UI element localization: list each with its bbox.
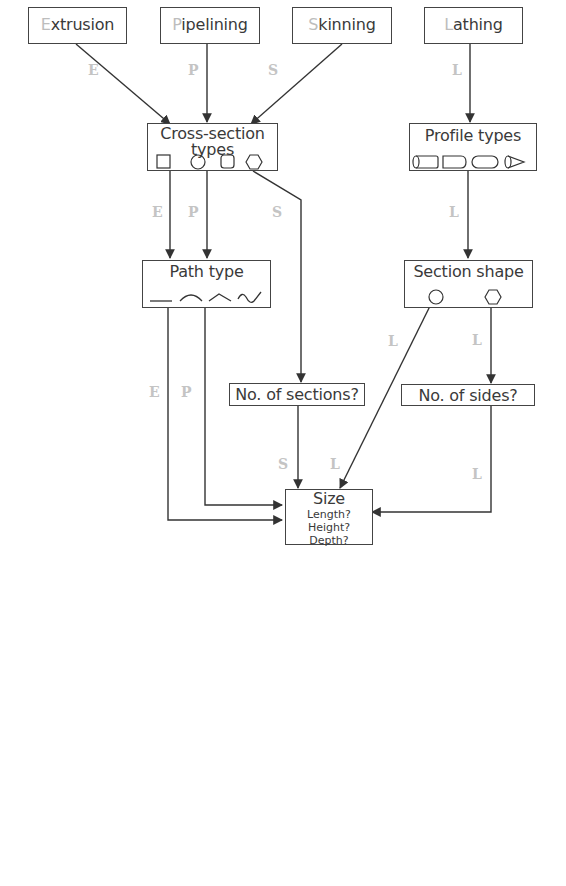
num-sides-title: No. of sides? — [402, 387, 534, 405]
edge-label-p: P — [188, 62, 199, 78]
edge-label-l: L — [452, 62, 462, 78]
num-sections-title: No. of sections? — [230, 386, 364, 404]
hexagon-icon — [485, 290, 501, 304]
size-title: Size — [286, 490, 372, 508]
edge-label-e: E — [152, 204, 163, 220]
edge-label-l: L — [449, 204, 459, 220]
edge-label-e: E — [149, 384, 160, 400]
size-box: Size Length? Height? Depth? — [285, 489, 373, 545]
path-type-box: Path type — [142, 260, 271, 308]
cross-section-types-box: Cross-section types — [147, 123, 278, 171]
square-icon — [157, 155, 170, 168]
num-sides-box: No. of sides? — [401, 384, 535, 406]
size-question-depth: Depth? — [286, 534, 372, 547]
edge-label-l: L — [472, 332, 482, 348]
section-shape-title: Section shape — [405, 263, 532, 281]
method-extrusion-box: Extrusion — [28, 7, 127, 44]
method-initial: S — [308, 15, 318, 34]
section-shape-box: Section shape — [404, 260, 533, 308]
edge-label-p: P — [181, 384, 192, 400]
edge-label-l: L — [330, 456, 340, 472]
method-label: ipelining — [181, 15, 247, 34]
rounded-rectangle-icon — [443, 156, 466, 168]
edge-skinning-cross-section — [251, 44, 342, 124]
circle-icon — [429, 290, 443, 304]
edge-label-p: P — [188, 204, 199, 220]
num-sections-box: No. of sections? — [229, 383, 365, 406]
profile-types-box: Profile types — [409, 123, 537, 171]
edge-label-s: S — [268, 62, 278, 78]
hexagon-icon — [246, 155, 262, 169]
edge-label-s: S — [278, 456, 288, 472]
size-question-height: Height? — [286, 521, 372, 534]
method-label: kinning — [318, 15, 375, 34]
cone-icon — [505, 156, 524, 168]
circle-icon — [191, 155, 205, 169]
method-lathing-box: Lathing — [424, 7, 523, 44]
edge-label-s: S — [272, 204, 282, 220]
edge-num-sides-size — [372, 405, 491, 512]
edge-extrusion-cross-section — [76, 44, 170, 124]
method-initial: P — [172, 15, 181, 34]
method-initial: E — [41, 15, 51, 34]
capsule-icon — [472, 156, 498, 168]
edge-path-size-e — [168, 308, 282, 520]
edge-label-l: L — [472, 466, 482, 482]
arc-icon — [180, 295, 202, 301]
edge-path-size-p — [205, 308, 282, 505]
method-label: xtrusion — [51, 15, 115, 34]
method-label: athing — [453, 15, 503, 34]
angle-icon — [209, 294, 231, 301]
edge-label-l: L — [388, 333, 398, 349]
profile-types-title: Profile types — [410, 127, 536, 145]
size-question-length: Length? — [286, 508, 372, 521]
s-curve-icon — [238, 292, 261, 302]
cylinder-icon — [413, 156, 438, 168]
path-type-title: Path type — [143, 263, 270, 281]
method-pipelining-box: Pipelining — [160, 7, 260, 44]
method-initial: L — [444, 15, 453, 34]
rounded-square-icon — [221, 155, 234, 168]
edge-label-e: E — [88, 62, 99, 78]
method-skinning-box: Skinning — [292, 7, 392, 44]
